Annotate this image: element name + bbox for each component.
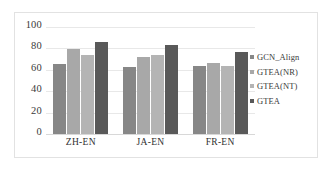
bar-group	[53, 27, 109, 134]
x-axis-tick-label: JA-EN	[119, 137, 181, 147]
y-axis: 100806040200	[14, 19, 42, 143]
bar	[81, 55, 94, 134]
chart-legend: GCN_AlignGTEA(NR)GTEA(NT)GTEA	[250, 50, 316, 108]
y-axis-tick-label: 60	[14, 62, 42, 73]
legend-item: GCN_Align	[250, 50, 316, 65]
x-axis-tick-label: FR-EN	[189, 137, 251, 147]
y-axis-tick-label: 80	[14, 40, 42, 51]
legend-item: GTEA	[250, 94, 316, 109]
legend-item: GTEA(NR)	[250, 65, 316, 80]
bar	[95, 42, 108, 134]
x-axis-tick-label: ZH-EN	[50, 137, 112, 147]
x-axis: ZH-ENJA-ENFR-EN	[46, 137, 255, 147]
bar	[207, 63, 220, 134]
legend-label: GTEA	[257, 96, 280, 106]
bar	[137, 57, 150, 134]
bar	[151, 55, 164, 134]
bar-chart: 100806040200 ZH-ENJA-ENFR-EN GCN_AlignGT…	[0, 0, 330, 172]
bar	[235, 52, 248, 134]
bar	[123, 67, 136, 134]
legend-label: GTEA(NR)	[257, 67, 298, 77]
bar-groups	[46, 27, 255, 134]
legend-swatch-icon	[250, 84, 254, 88]
y-axis-tick-label: 0	[14, 126, 42, 137]
y-axis-tick-label: 20	[14, 105, 42, 116]
legend-swatch-icon	[250, 55, 254, 59]
plot-area	[46, 27, 255, 134]
legend-swatch-icon	[250, 70, 254, 74]
gridline	[46, 134, 255, 135]
legend-label: GTEA(NT)	[257, 81, 297, 91]
legend-label: GCN_Align	[257, 52, 299, 62]
bar-group	[122, 27, 178, 134]
y-axis-tick-label: 40	[14, 83, 42, 94]
legend-item: GTEA(NT)	[250, 79, 316, 94]
bar	[193, 66, 206, 134]
legend-swatch-icon	[250, 99, 254, 103]
bar	[221, 66, 234, 134]
y-axis-tick-label: 100	[14, 19, 42, 30]
bar-group	[192, 27, 248, 134]
bar	[53, 64, 66, 134]
bar	[165, 45, 178, 134]
bar	[67, 49, 80, 134]
